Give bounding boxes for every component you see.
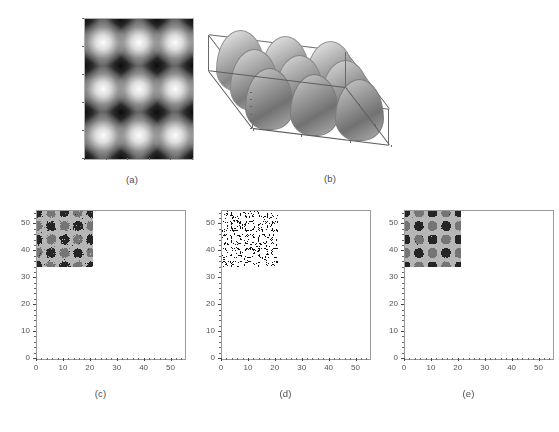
panel-d-ytick-minor: [219, 267, 221, 268]
panel-c-ytick-minor: [34, 256, 36, 257]
panel-c-ytick-minor: [34, 229, 36, 230]
panel-e-ytick-label: 20: [382, 299, 398, 308]
panel-d-ytick-minor: [219, 234, 221, 235]
panel-b-xtick: [253, 129, 254, 131]
panel-d-xtick-minor: [243, 358, 244, 360]
panel-c-ytick-minor: [34, 342, 36, 343]
panel-c-xtick-minor: [111, 358, 112, 360]
panel-a-caption: (a): [62, 174, 202, 185]
panel-d-ytick-minor: [219, 256, 221, 257]
panel-c-ytick-minor: [34, 293, 36, 294]
panel-d-xtick-minor: [307, 358, 308, 360]
panel-d-ytick-label: 40: [199, 245, 215, 254]
panel-e-ytick-minor: [402, 256, 404, 257]
panel-d-xtick-minor: [253, 358, 254, 360]
panel-c-ytick-minor: [34, 288, 36, 289]
panel-c-plot-area: [36, 210, 186, 360]
panel-e-ytick-mark: [401, 331, 404, 332]
panel-c-ytick-mark: [33, 304, 36, 305]
panel-d-ytick-label: 0: [199, 353, 215, 362]
panel-c-ytick-minor: [34, 213, 36, 214]
panel-e-ytick-label: 0: [382, 353, 398, 362]
panel-d-xtick-minor: [291, 358, 292, 360]
panel-c-xtick-mark: [117, 358, 118, 361]
panel-d-xtick-mark: [302, 358, 303, 361]
panel-d-xtick-mark: [356, 358, 357, 361]
panel-b-ztick: [250, 99, 252, 100]
panel-a-ytick: [82, 130, 84, 131]
panel-d-xtick-minor: [296, 358, 297, 360]
panel-e-xtick-label: 40: [502, 363, 522, 372]
panel-d-ytick-minor: [219, 245, 221, 246]
panel-c-xtick-label: 30: [107, 363, 127, 372]
panel-d-xtick-minor: [318, 358, 319, 360]
panel-e-xtick-mark: [512, 358, 513, 361]
panel-d-xtick-minor: [334, 358, 335, 360]
panel-a: (a): [62, 14, 202, 204]
panel-e-xtick-minor: [442, 358, 443, 360]
panel-d: (d) 0102030405001020304050: [193, 206, 378, 426]
panel-e-xtick-minor: [426, 358, 427, 360]
panel-d-ytick-mark: [218, 331, 221, 332]
panel-c-ytick-minor: [34, 310, 36, 311]
panel-c-ytick-minor: [34, 245, 36, 246]
panel-c-ytick-label: 30: [14, 272, 30, 281]
panel-d-ytick-minor: [219, 283, 221, 284]
panel-c-ytick-minor: [34, 299, 36, 300]
panel-e-ytick-minor: [402, 320, 404, 321]
panel-d-ytick-minor: [219, 261, 221, 262]
panel-e-xtick-minor: [447, 358, 448, 360]
panel-e-ytick-minor: [402, 261, 404, 262]
panel-c-ytick-label: 0: [14, 353, 30, 362]
panel-e: (e) 0102030405001020304050: [376, 206, 559, 426]
panel-e-ytick-label: 50: [382, 218, 398, 227]
panel-c-xtick-minor: [74, 358, 75, 360]
panel-e-ytick-minor: [402, 342, 404, 343]
panel-c-xtick-minor: [47, 358, 48, 360]
panel-c-ytick-minor: [34, 218, 36, 219]
panel-a-ytick: [82, 158, 84, 159]
panel-e-ytick-minor: [402, 288, 404, 289]
panel-e-ytick-label: 40: [382, 245, 398, 254]
panel-c-xtick-label: 20: [80, 363, 100, 372]
panel-b-ztick: [250, 114, 252, 115]
panel-e-ytick-minor: [402, 315, 404, 316]
panel-d-xtick-minor: [366, 358, 367, 360]
surface-hump: [335, 79, 384, 141]
panel-d-ytick-minor: [219, 326, 221, 327]
panel-c-ytick-minor: [34, 240, 36, 241]
panel-c-xtick-minor: [133, 358, 134, 360]
panel-d-xtick-minor: [232, 358, 233, 360]
intensity-peak: [152, 159, 194, 160]
panel-c-ytick-minor: [34, 353, 36, 354]
panel-c-ytick-mark: [33, 223, 36, 224]
panel-d-xtick-minor: [259, 358, 260, 360]
panel-e-caption: (e): [376, 388, 559, 399]
intensity-peak: [188, 159, 194, 160]
panel-e-xtick-mark: [485, 358, 486, 361]
panel-d-ytick-minor: [219, 320, 221, 321]
axis-box-vertical: [345, 52, 346, 88]
panel-a-plot-area: [84, 18, 194, 160]
panel-e-xtick-minor: [490, 358, 491, 360]
panel-d-ytick-minor: [219, 240, 221, 241]
panel-c-xtick-minor: [165, 358, 166, 360]
panel-d-ytick-mark: [218, 358, 221, 359]
panel-c-xtick-minor: [181, 358, 182, 360]
panel-a-xtick: [170, 158, 171, 160]
panel-c: (c) 0102030405001020304050: [8, 206, 193, 426]
panel-e-ytick-minor: [402, 283, 404, 284]
panel-d-ytick-label: 50: [199, 218, 215, 227]
panel-d-ytick-label: 10: [199, 326, 215, 335]
panel-d-xtick-minor: [339, 358, 340, 360]
panel-d-ytick-minor: [219, 336, 221, 337]
panel-c-xtick-minor: [160, 358, 161, 360]
binary-error-map-d: [222, 211, 278, 267]
figure-root: (a) (b) (c) 0102030405001020304050 (d) 0…: [0, 0, 559, 432]
panel-d-xtick-minor: [264, 358, 265, 360]
panel-d-ytick-label: 30: [199, 272, 215, 281]
panel-b-ztick: [250, 106, 252, 107]
panel-d-xtick-minor: [350, 358, 351, 360]
panel-e-ytick-minor: [402, 218, 404, 219]
panel-a-xtick: [192, 158, 193, 160]
